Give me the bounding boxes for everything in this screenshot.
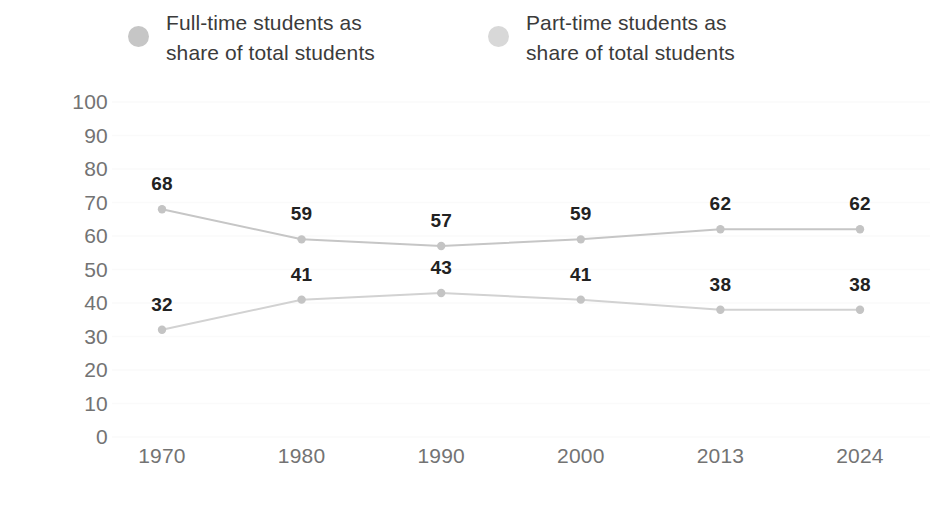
data-point-label: 41 [570, 264, 592, 286]
data-point-label: 38 [710, 274, 732, 296]
data-point-marker[interactable] [158, 326, 166, 334]
y-axis-tick-label: 0 [38, 425, 108, 449]
data-point-label: 43 [430, 257, 452, 279]
data-point-marker[interactable] [856, 225, 864, 233]
y-axis-title: Percent [0, 236, 1, 290]
data-point-marker[interactable] [856, 306, 864, 314]
data-point-label: 62 [849, 193, 871, 215]
y-axis-tick-label: 40 [38, 291, 108, 315]
x-axis-tick-label: 1970 [138, 444, 186, 468]
data-point-marker[interactable] [716, 306, 724, 314]
chart-container: Full-time students as share of total stu… [0, 0, 938, 506]
data-point-marker[interactable] [437, 289, 445, 297]
series-full-time [158, 205, 864, 250]
y-axis-tick-label: 90 [38, 124, 108, 148]
data-point-label: 32 [151, 294, 173, 316]
data-point-label: 62 [710, 193, 732, 215]
data-point-label: 68 [151, 173, 173, 195]
data-point-label: 59 [570, 203, 592, 225]
data-point-marker[interactable] [437, 242, 445, 250]
y-axis-tick-label: 80 [38, 157, 108, 181]
y-axis-tick-label: 50 [38, 258, 108, 282]
y-axis-tick-label: 30 [38, 325, 108, 349]
y-axis-ticks: 1009080706050403020100 [30, 0, 108, 506]
data-point-marker[interactable] [158, 205, 166, 213]
x-axis-tick-label: 2013 [697, 444, 745, 468]
y-axis-tick-label: 60 [38, 224, 108, 248]
chart-series-layer [0, 0, 938, 506]
plot-area [0, 0, 938, 506]
data-point-marker[interactable] [297, 295, 305, 303]
x-axis-tick-label: 1990 [417, 444, 465, 468]
y-axis-tick-label: 70 [38, 191, 108, 215]
data-point-label: 59 [291, 203, 313, 225]
data-point-marker[interactable] [577, 295, 585, 303]
data-point-marker[interactable] [716, 225, 724, 233]
x-axis-tick-label: 2024 [836, 444, 884, 468]
y-axis-tick-label: 10 [38, 392, 108, 416]
series-line [162, 209, 860, 246]
x-axis-tick-label: 1980 [278, 444, 326, 468]
data-point-marker[interactable] [577, 235, 585, 243]
series-line [162, 293, 860, 330]
series-part-time [158, 289, 864, 334]
data-point-label: 57 [430, 210, 452, 232]
y-axis-tick-label: 100 [38, 90, 108, 114]
data-point-label: 38 [849, 274, 871, 296]
y-axis-tick-label: 20 [38, 358, 108, 382]
data-point-label: 41 [291, 264, 313, 286]
x-axis-tick-label: 2000 [557, 444, 605, 468]
data-point-marker[interactable] [297, 235, 305, 243]
